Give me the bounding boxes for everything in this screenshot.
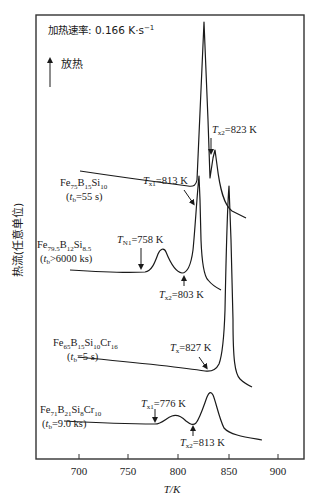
- x-tick-label: 850: [221, 465, 238, 477]
- annotation-tx2-813: Tx2=813 K: [180, 437, 225, 450]
- exotherm-label: 放热: [61, 57, 83, 71]
- series-label-fe71b21si8cr10: Fe71B21Si8Cr10: [40, 404, 102, 418]
- series-label-fe75b15si10: Fe75B15Si10: [60, 177, 108, 191]
- annotation-tx1-776: Tx1=776 K: [141, 398, 186, 411]
- heating-rate-label: 加热速率: 0.166 K·s−1: [48, 24, 154, 36]
- arrow-icon: [199, 357, 206, 367]
- series-label-fe65b15si10cr16: Fe65B15Si10Cr16: [53, 337, 118, 351]
- x-tick-label: 800: [170, 465, 187, 477]
- dsc-chart: 700 750 800 850 900 T/K 热流(任意单位) 加热速率: 0…: [0, 0, 316, 502]
- series-time-fe71b21si8cr10: (tb=9.0 ks): [42, 418, 87, 431]
- x-tick-label: 750: [120, 465, 137, 477]
- x-axis-label: T/K: [164, 483, 181, 495]
- series-time-fe75b15si10: (tb=55 s): [66, 191, 103, 204]
- curve-fe65b15si10cr16: [78, 186, 252, 387]
- series-label-fe79.5b12si8.5: Fe79.5B12Si8.5: [37, 239, 92, 253]
- series-time-fe65b15si10cr16: (tb=5 s): [67, 351, 99, 364]
- annotation-tx1-813: Tx1=813 K: [143, 175, 188, 188]
- annotation-tx2-803: Tx2=803 K: [159, 289, 204, 302]
- series-time-fe79.5b12si8.5: (tb>6000 ks): [40, 253, 93, 266]
- annotation-tn1-758: TN1=758 K: [117, 234, 164, 247]
- x-axis: 700 750 800 850 900 T/K: [71, 454, 287, 495]
- y-axis-label: 热流(任意单位): [11, 203, 25, 278]
- annotation-tx2-823: Tx2=823 K: [212, 124, 257, 137]
- x-tick-label: 700: [71, 465, 88, 477]
- arrow-icon: [184, 190, 193, 203]
- annotation-tx-827: Tx=827 K: [170, 342, 212, 355]
- x-tick-label: 900: [270, 465, 287, 477]
- plot-frame: [36, 15, 304, 459]
